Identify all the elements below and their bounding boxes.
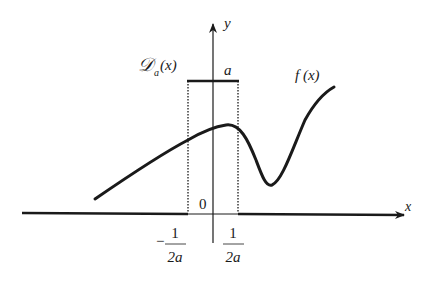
svg-text:2a: 2a: [226, 249, 241, 265]
delta-approximation-diagram: x y 0 a 𝒟 a (x) f (x) − 1 2a 1 2a: [0, 0, 427, 283]
svg-text:1: 1: [229, 225, 237, 241]
curve-label: f (x): [295, 67, 320, 84]
y-axis-label: y: [222, 15, 231, 31]
pulse-height-label: a: [224, 62, 232, 78]
svg-text:−: −: [156, 233, 164, 249]
pulse-subscript: a: [154, 67, 159, 78]
origin-label: 0: [199, 196, 207, 212]
svg-text:2a: 2a: [168, 249, 183, 265]
pulse-argument: (x): [160, 57, 177, 74]
x-axis-label: x: [404, 199, 412, 214]
left-tick-label: − 1 2a: [156, 225, 186, 265]
f-curve: [95, 87, 334, 199]
pulse-label: 𝒟 a (x): [138, 54, 177, 78]
svg-text:1: 1: [171, 225, 179, 241]
right-tick-label: 1 2a: [223, 225, 244, 265]
